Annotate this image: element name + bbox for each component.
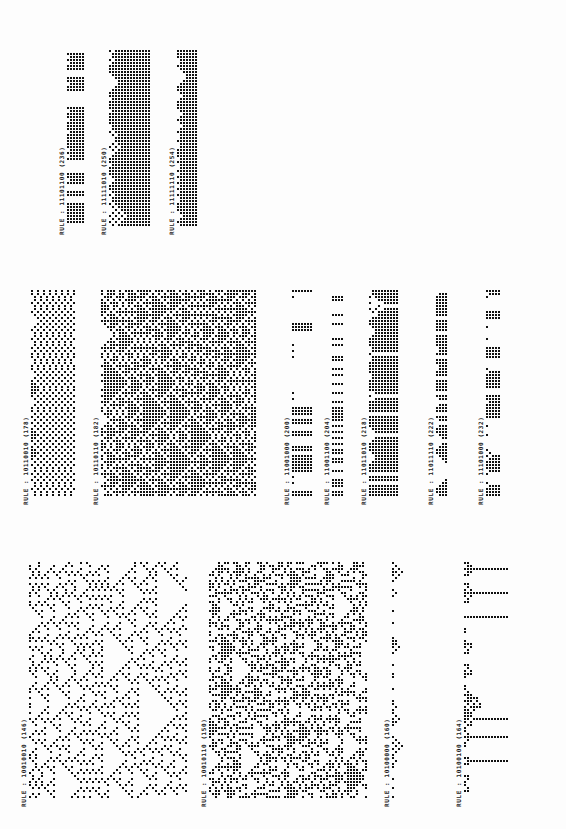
rule-label: RULE : 11011010 (218) <box>360 417 367 505</box>
automaton-pattern <box>209 562 368 799</box>
automaton-pattern <box>67 50 86 227</box>
rule-panel-232: RULE : 11101000 (232) <box>477 290 501 505</box>
rule-panel-200: RULE : 11001000 (200) <box>283 290 313 505</box>
automaton-pattern <box>486 290 501 497</box>
rule-label: RULE : 10110010 (178) <box>22 417 29 505</box>
automaton-pattern <box>29 562 188 799</box>
rule-label: RULE : 10100100 (164) <box>455 719 462 807</box>
automaton-pattern <box>392 562 435 799</box>
rule-label: RULE : 11101100 (236) <box>58 147 65 235</box>
rule-panel-178: RULE : 10110010 (178) <box>22 290 78 505</box>
automaton-pattern <box>109 50 152 227</box>
rule-panel-222: RULE : 11011110 (222) <box>427 290 449 505</box>
automaton-pattern <box>101 290 258 497</box>
rule-panel-218: RULE : 11011010 (218) <box>360 290 400 505</box>
rule-label: RULE : 11111110 (254) <box>168 147 175 235</box>
rule-panel-164: RULE : 10100100 (164) <box>455 562 509 807</box>
automaton-pattern <box>464 562 509 799</box>
rule-label: RULE : 11001000 (200) <box>283 417 290 505</box>
rule-label: RULE : 10010110 (150) <box>200 719 207 807</box>
rule-label: RULE : 10010010 (146) <box>20 719 27 807</box>
rule-label: RULE : 10100000 (160) <box>383 719 390 807</box>
automaton-pattern <box>436 290 449 497</box>
rule-panel-182: RULE : 10110110 (182) <box>92 290 258 505</box>
rule-label: RULE : 11011110 (222) <box>427 417 434 505</box>
automaton-pattern <box>292 290 313 497</box>
rule-label: RULE : 11001100 (204) <box>323 417 330 505</box>
rule-label: RULE : 10110110 (182) <box>92 417 99 505</box>
automaton-pattern <box>177 50 198 227</box>
rule-panel-146: RULE : 10010010 (146) <box>20 562 188 807</box>
rule-panel-254: RULE : 11111110 (254) <box>168 50 198 235</box>
rule-panel-236: RULE : 11101100 (236) <box>58 50 86 235</box>
rule-panel-250: RULE : 11111010 (250) <box>100 50 152 235</box>
rule-panel-160: RULE : 10100000 (160) <box>383 562 435 807</box>
rule-panel-204: RULE : 11001100 (204) <box>323 290 345 505</box>
automaton-pattern <box>332 290 345 497</box>
rule-panel-150: RULE : 10010110 (150) <box>200 562 368 807</box>
automaton-pattern <box>369 290 400 497</box>
automaton-pattern <box>31 290 78 497</box>
printout-page: RULE : 11101100 (236)RULE : 11111010 (25… <box>0 0 566 829</box>
rule-label: RULE : 11101000 (232) <box>477 417 484 505</box>
rule-label: RULE : 11111010 (250) <box>100 147 107 235</box>
